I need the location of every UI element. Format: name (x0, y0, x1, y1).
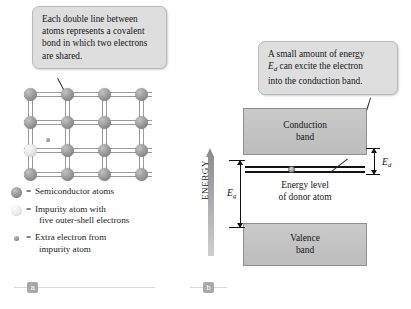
semiconductor-atom (61, 116, 74, 129)
band-gap-tick-bottom (229, 227, 245, 228)
panel-label-a: a (27, 282, 38, 293)
donor-energy-label: Ed (382, 156, 391, 168)
legend-electron-label-line2: impurity atom (35, 244, 91, 256)
callout-b-line1: A small amount of energy (268, 49, 364, 59)
semiconductor-atom (24, 168, 37, 181)
semiconductor-atom (98, 144, 111, 157)
extra-electron (46, 138, 50, 142)
crystal-lattice-diagram (24, 88, 152, 182)
semiconductor-atom-icon (6, 186, 26, 198)
legend-equals: = (26, 186, 35, 198)
legend-semiconductor-label: Semiconductor atoms (35, 186, 186, 198)
semiconductor-atom (135, 116, 148, 129)
band-gap-dimension-arrow (236, 160, 244, 228)
donor-energy-tick-bottom (366, 174, 380, 175)
legend-item-impurity: = Impurity atom with five outer-shell el… (6, 204, 186, 227)
callout-b-line3: into the conduction band. (268, 76, 363, 86)
panel-b-rule-left (190, 287, 203, 288)
donor-energy-tick-top (366, 148, 380, 149)
donor-energy-dimension-arrow (370, 148, 378, 175)
legend-item-semiconductor: = Semiconductor atoms (6, 186, 186, 198)
band-gap-subscript: g (233, 192, 236, 199)
donor-energy-level-line (245, 166, 365, 168)
panel-a-rule-left (14, 287, 27, 288)
semiconductor-atom (135, 168, 148, 181)
panel-a-rule-right (38, 287, 155, 288)
callout-covalent-bond: Each double line between atoms represent… (32, 6, 167, 69)
semiconductor-atom (61, 144, 74, 157)
valence-band: Valence band (243, 223, 367, 266)
callout-a-line2: atoms represents a covalent (42, 25, 158, 37)
panel-b-rule-right (214, 287, 227, 288)
conduction-band: Conduction band (243, 108, 367, 155)
semiconductor-atom (24, 116, 37, 129)
semiconductor-atom (61, 88, 74, 101)
semiconductor-atom (98, 168, 111, 181)
semiconductor-atom (135, 144, 148, 157)
band-gap-label: Eg (227, 187, 236, 199)
impurity-atom-icon (6, 204, 26, 216)
impurity-atom (24, 144, 37, 157)
donor-level-label-line1: Energy level (251, 180, 359, 192)
callout-donor-excitation: A small amount of energy Ed can excite t… (258, 41, 398, 95)
donor-energy-level-line-lower (245, 171, 365, 173)
legend-impurity-label-line2: five outer-shell electrons (35, 215, 129, 227)
valence-band-label-line2: band (244, 245, 366, 257)
callout-b-line2: can excite the electron (277, 61, 363, 71)
panel-label-b: b (203, 282, 214, 293)
donor-energy-subscript: d (388, 161, 391, 168)
conduction-band-label-line2: band (244, 132, 366, 144)
legend-item-electron: = Extra electron from impurity atom (6, 232, 186, 255)
semiconductor-atom (61, 168, 74, 181)
semiconductor-atom (98, 88, 111, 101)
donor-level-label: Energy level of donor atom (251, 180, 359, 203)
legend-equals: = (26, 204, 35, 216)
extra-electron-icon (6, 232, 26, 241)
semiconductor-atom (24, 88, 37, 101)
conduction-band-label-line1: Conduction (244, 120, 366, 132)
legend: = Semiconductor atoms = Impurity atom wi… (6, 186, 186, 261)
valence-band-label-line1: Valence (244, 233, 366, 245)
callout-a-line4: are shared. (42, 50, 158, 62)
figure-semiconductor-doping: Each double line between atoms represent… (0, 0, 411, 309)
semiconductor-atom (135, 88, 148, 101)
semiconductor-atom (98, 116, 111, 129)
legend-equals: = (26, 232, 35, 244)
legend-impurity-label-line1: Impurity atom with (35, 204, 106, 214)
legend-electron-label-line1: Extra electron from (35, 232, 106, 242)
donor-level-label-line2: of donor atom (251, 192, 359, 204)
callout-a-line1: Each double line between (42, 13, 158, 25)
band-gap-tick-top (229, 160, 245, 161)
donor-electron-dot (288, 166, 295, 173)
callout-a-line3: bond in which two electrons (42, 37, 158, 49)
energy-axis-label: ENERGY (200, 160, 210, 200)
